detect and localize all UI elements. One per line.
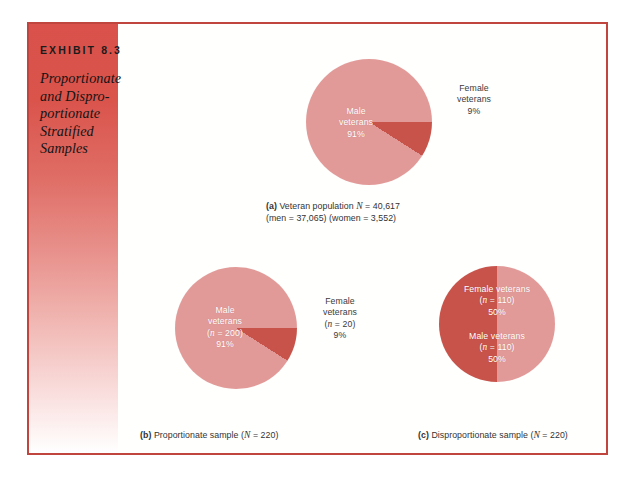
caption-line: (b) Proportionate sample (N = 220) xyxy=(140,429,278,441)
pie-b-male-label: Male veterans (n = 200) 91% xyxy=(189,305,261,351)
pie-b-female-label: Female veterans (n = 20) 9% xyxy=(308,296,372,342)
caption-text: = 220) xyxy=(540,430,568,440)
pie-c-male-label: Male veterans (n = 110) 50% xyxy=(439,331,555,365)
n-variable: n xyxy=(210,328,215,338)
pie-chart-a: Male veterans 91% Female veterans 9% (a)… xyxy=(118,24,610,239)
label-line: 9% xyxy=(443,106,505,117)
label-line: 50% xyxy=(439,307,555,318)
caption-text: = 40,617 xyxy=(363,201,400,211)
exhibit-title: Proportionate and Dispro- portionate Str… xyxy=(40,70,116,158)
exhibit-band: EXHIBIT 8.3 Proportionate and Dispro- po… xyxy=(29,24,118,453)
caption-text: Veteran population xyxy=(277,201,356,211)
label-line: 9% xyxy=(308,330,372,341)
charts-area: Male veterans 91% Female veterans 9% (a)… xyxy=(118,24,606,453)
label-line: Female xyxy=(443,83,505,94)
label-line: (n = 20) xyxy=(308,319,372,330)
caption-marker: (c) xyxy=(418,430,429,440)
label-line: Male veterans xyxy=(439,331,555,342)
label-line: Male xyxy=(319,106,393,117)
label-line: Female veterans xyxy=(439,284,555,295)
label-line: (n = 110) xyxy=(439,342,555,353)
caption-text: Disproportionate sample ( xyxy=(429,430,533,440)
pie-b-caption: (b) Proportionate sample (N = 220) xyxy=(140,429,278,441)
pie-a-female-label: Female veterans 9% xyxy=(443,83,505,117)
caption-line: (a) Veteran population N = 40,617 xyxy=(266,200,400,212)
label-line: veterans xyxy=(308,307,372,318)
pie-c-caption: (c) Disproportionate sample (N = 220) xyxy=(418,429,568,441)
label-line: 91% xyxy=(319,129,393,140)
label-line: veterans xyxy=(189,316,261,327)
exhibit-title-line: Stratified xyxy=(40,123,116,141)
caption-text: = 220) xyxy=(250,430,278,440)
exhibit-title-line: portionate xyxy=(40,105,116,123)
label-line: Female xyxy=(308,296,372,307)
label-line: 91% xyxy=(189,339,261,350)
n-variable: n xyxy=(328,319,333,329)
label-line: veterans xyxy=(443,94,505,105)
exhibit-number-label: EXHIBIT 8.3 xyxy=(40,44,122,56)
exhibit-title-line: Samples xyxy=(40,140,116,158)
caption-text: Proportionate sample ( xyxy=(151,430,244,440)
n-variable: n xyxy=(482,342,487,352)
label-line: veterans xyxy=(319,117,393,128)
exhibit-title-line: and Dispro- xyxy=(40,88,116,106)
caption-line: (c) Disproportionate sample (N = 220) xyxy=(418,429,568,441)
caption-marker: (a) xyxy=(266,201,277,211)
pie-chart-b: Male veterans (n = 200) 91% Female veter… xyxy=(118,239,418,454)
pie-chart-c: Female veterans (n = 110) 50% Male veter… xyxy=(418,239,610,454)
pie-c-female-label: Female veterans (n = 110) 50% xyxy=(439,284,555,318)
label-line: (n = 200) xyxy=(189,328,261,339)
label-line: 50% xyxy=(439,354,555,365)
label-line: (n = 110) xyxy=(439,295,555,306)
caption-marker: (b) xyxy=(140,430,151,440)
pie-a-male-label: Male veterans 91% xyxy=(319,106,393,140)
exhibit-frame: EXHIBIT 8.3 Proportionate and Dispro- po… xyxy=(27,22,608,455)
caption-line: (men = 37,065) (women = 3,552) xyxy=(266,212,400,224)
label-line: Male xyxy=(189,305,261,316)
exhibit-title-line: Proportionate xyxy=(40,70,116,88)
pie-a-caption: (a) Veteran population N = 40,617 (men =… xyxy=(266,200,400,224)
n-variable: n xyxy=(482,295,487,305)
